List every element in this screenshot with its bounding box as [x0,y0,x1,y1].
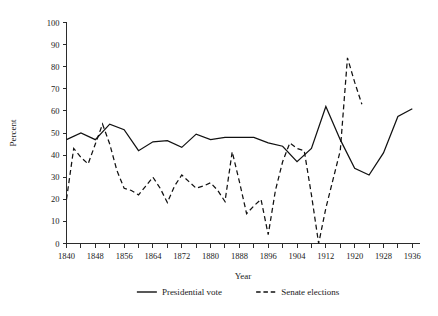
y-tick-label: 40 [51,150,60,160]
x-tick-label: 1880 [202,251,219,261]
legend-group: Presidential voteSenate elections [137,287,340,297]
x-tick-label: 1840 [58,251,75,261]
legend-item: Presidential vote [137,287,222,297]
legend-item: Senate elections [256,287,340,297]
x-tick-label: 1928 [375,251,392,261]
y-axis-ticks-group: 0102030405060708090100 [47,18,67,249]
y-tick-label: 70 [51,84,60,94]
legend-label-senate-elections: Senate elections [281,287,340,297]
y-tick-label: 90 [51,40,60,50]
y-tick-label: 0 [55,239,59,249]
y-tick-label: 30 [51,172,60,182]
data-series-group [67,58,413,244]
x-tick-label: 1912 [317,251,334,261]
y-tick-label: 10 [51,216,60,226]
axes-group [67,23,420,244]
x-tick-label: 1848 [87,251,104,261]
x-tick-label: 1904 [289,251,307,261]
y-tick-label: 100 [47,18,60,28]
legend-label-presidential-vote: Presidential vote [162,287,222,297]
x-axis-title: Year [235,271,252,281]
x-axis-ticks-group: 1840184818561864187218801888189619041912… [58,244,421,261]
y-tick-label: 80 [51,62,60,72]
x-tick-label: 1920 [346,251,363,261]
x-tick-label: 1856 [116,251,133,261]
y-tick-label: 50 [51,128,60,138]
x-tick-label: 1872 [173,251,190,261]
x-tick-label: 1936 [404,251,421,261]
x-tick-label: 1896 [260,251,277,261]
y-axis-title: Percent [8,119,18,146]
series-line-senate-elections [67,58,362,244]
y-tick-label: 20 [51,194,60,204]
x-tick-label: 1888 [231,251,248,261]
chart-container: 0102030405060708090100 18401848185618641… [0,0,438,316]
line-chart-svg: 0102030405060708090100 18401848185618641… [0,0,438,316]
y-tick-label: 60 [51,106,60,116]
series-line-presidential-vote [67,106,413,175]
x-tick-label: 1864 [144,251,162,261]
